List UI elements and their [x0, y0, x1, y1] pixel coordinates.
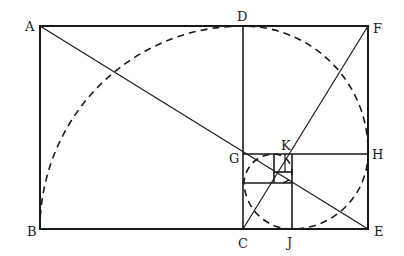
label-C: C: [238, 236, 248, 251]
label-G: G: [229, 151, 239, 166]
label-D: D: [237, 9, 247, 24]
label-E: E: [374, 224, 384, 239]
golden-rectangle-diagram: A B C D E F G H J K: [0, 0, 404, 256]
diagonal-AE: [40, 26, 368, 229]
diagonal-FC: [243, 26, 368, 229]
label-H: H: [372, 147, 383, 162]
label-K: K: [281, 138, 291, 153]
label-B: B: [27, 224, 37, 239]
label-J: J: [285, 235, 292, 250]
label-F: F: [373, 21, 382, 36]
label-A: A: [24, 19, 35, 34]
